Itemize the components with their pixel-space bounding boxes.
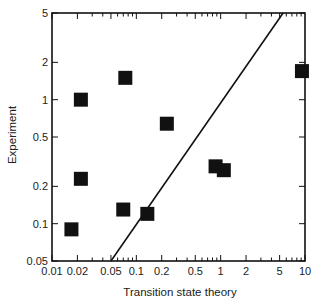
data-point-square: [217, 163, 231, 177]
data-point-square: [118, 71, 132, 85]
y-tick-label: 2: [42, 56, 48, 68]
x-tick-label: 0.05: [100, 265, 121, 277]
y-tick-label: 0.2: [33, 180, 48, 192]
x-tick-label: 0.02: [67, 265, 88, 277]
plot-frame: [52, 13, 305, 261]
x-tick-label: 0.2: [154, 265, 169, 277]
y-tick-label: 1: [42, 94, 48, 106]
y-tick-label: 0.05: [27, 255, 48, 267]
data-point-square: [74, 93, 88, 107]
y-equals-x-line: [111, 13, 283, 261]
x-tick-label: 1: [218, 265, 224, 277]
data-point-square: [295, 64, 309, 78]
x-tick-label: 2: [243, 265, 249, 277]
x-axis-title: Transition state theory: [123, 286, 237, 298]
data-point-square: [64, 222, 78, 236]
x-axis-ticks: 0.010.020.050.10.20.512510: [41, 13, 311, 277]
reference-line: [111, 13, 283, 261]
data-point-square: [74, 172, 88, 186]
y-tick-label: 0.1: [33, 218, 48, 230]
data-point-square: [140, 207, 154, 221]
plot-border: [52, 13, 305, 261]
y-axis-title: Experiment: [6, 105, 18, 164]
x-tick-label: 5: [277, 265, 283, 277]
y-tick-label: 0.5: [33, 131, 48, 143]
x-tick-label: 0.5: [188, 265, 203, 277]
data-point-square: [116, 203, 130, 217]
data-points: [64, 64, 309, 236]
x-tick-label: 0.1: [129, 265, 144, 277]
scatter-chart: 0.010.020.050.10.20.512510 0.050.10.20.5…: [0, 0, 318, 304]
x-tick-label: 10: [299, 265, 311, 277]
y-tick-label: 5: [42, 7, 48, 19]
data-point-square: [160, 117, 174, 131]
